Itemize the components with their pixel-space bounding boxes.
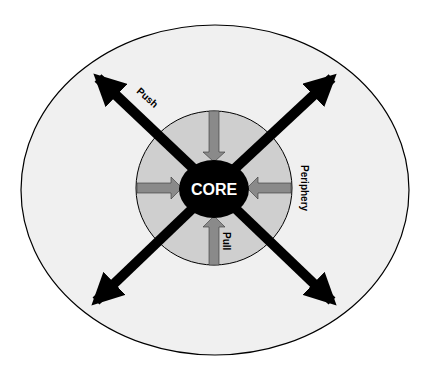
core-label: CORE (191, 181, 238, 198)
pull-label: Pull (221, 232, 232, 251)
core-periphery-diagram: CORE Push Pull Periphery (0, 0, 428, 373)
periphery-label: Periphery (299, 165, 310, 212)
